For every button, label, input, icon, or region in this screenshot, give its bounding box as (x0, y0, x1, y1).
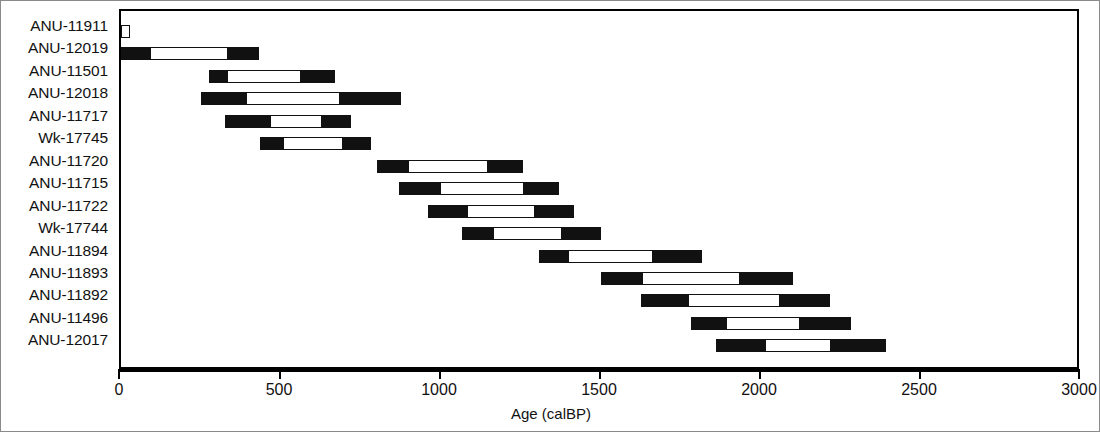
bar-segment-inner (643, 272, 739, 285)
bar-segment-inner (766, 339, 830, 352)
bar-segment-outer-left (399, 182, 441, 195)
bar-segment-inner (247, 92, 338, 105)
x-axis-title: Age (calBP) (1, 405, 1100, 422)
row-label: ANU-12017 (28, 332, 108, 348)
x-axis-tick (919, 369, 921, 379)
bar-segment-outer-right (300, 70, 335, 83)
bar-row (121, 70, 1081, 83)
bar-segment-outer-right (227, 47, 259, 60)
bar-row (121, 205, 1081, 218)
bar-segment-outer-left (691, 317, 728, 330)
x-axis-tick (599, 369, 601, 379)
bar-segment-outer-left (641, 294, 689, 307)
bar-segment-outer-left (601, 272, 643, 285)
bar-row (121, 317, 1081, 330)
bar-row (121, 250, 1081, 263)
bar-segment-outer-right (321, 115, 351, 128)
chart-page: ANU-11911ANU-12019ANU-11501ANU-12018ANU-… (0, 0, 1100, 432)
bar-row (121, 227, 1081, 240)
x-axis-tick (279, 369, 281, 379)
bar-segment-outer-right (339, 92, 401, 105)
x-axis-tick-label: 0 (115, 382, 124, 398)
bar-segment-outer-right (487, 160, 522, 173)
plot-area (119, 9, 1079, 369)
bar-row (121, 47, 1081, 60)
bar-row (121, 137, 1081, 150)
x-axis: 050010001500200025003000 (119, 369, 1079, 370)
row-label: ANU-11501 (29, 63, 108, 79)
bar-segment-outer-right (739, 272, 793, 285)
bar-segment-outer-left (539, 250, 569, 263)
bar-segment-inner (409, 160, 487, 173)
x-axis-tick (439, 369, 441, 379)
bar-segment-inner (284, 137, 342, 150)
bar-segment-outer-left (121, 47, 151, 60)
bar-segment-inner (689, 294, 779, 307)
row-label: ANU-11893 (29, 265, 108, 281)
bar-segment-outer-left (225, 115, 271, 128)
bar-segment-inner (228, 70, 300, 83)
bar-row (121, 182, 1081, 195)
bar-segment-outer-left (260, 137, 284, 150)
bar-segment-inner (271, 115, 321, 128)
row-label: ANU-12018 (28, 85, 108, 101)
row-label: ANU-11717 (29, 108, 108, 124)
x-axis-tick-label: 1000 (421, 382, 457, 398)
bars-container (121, 11, 1077, 367)
x-axis-tick-label: 2000 (741, 382, 777, 398)
row-label: ANU-11894 (29, 243, 108, 259)
bar-segment-outer-right (523, 182, 560, 195)
bar-row (121, 339, 1081, 352)
x-axis-tick-label: 500 (266, 382, 293, 398)
x-axis-tick-label: 1500 (581, 382, 617, 398)
bar-segment-inner (441, 182, 523, 195)
row-label: ANU-12019 (28, 40, 108, 56)
row-label: ANU-11911 (30, 18, 108, 34)
bar-segment-outer-right (799, 317, 850, 330)
row-label: ANU-11722 (29, 198, 108, 214)
bar-segment-inner (468, 205, 534, 218)
bar-segment-inner (494, 227, 561, 240)
x-axis-tick (1078, 369, 1080, 379)
y-axis-label-column: ANU-11911ANU-12019ANU-11501ANU-12018ANU-… (1, 1, 114, 369)
bar-segment-outer-right (342, 137, 371, 150)
row-label: Wk-17744 (38, 220, 108, 236)
bar-segment-outer-left (428, 205, 468, 218)
bar-segment-outer-left (201, 92, 247, 105)
bar-segment-outer-left (377, 160, 409, 173)
bar-row (121, 272, 1081, 285)
bar-segment-outer-right (561, 227, 601, 240)
bar-segment-outer-left (209, 70, 228, 83)
row-label: ANU-11715 (29, 175, 108, 191)
bar-row (121, 92, 1081, 105)
bar-segment-outer-right (534, 205, 574, 218)
bar-segment-outline (121, 25, 130, 38)
bar-segment-inner (727, 317, 799, 330)
x-axis-tick-label: 2500 (901, 382, 937, 398)
x-axis-tick (759, 369, 761, 379)
x-axis-tick-label: 3000 (1061, 382, 1097, 398)
row-label: Wk-17745 (38, 130, 108, 146)
bar-segment-outer-left (462, 227, 494, 240)
bar-row (121, 25, 1081, 38)
bar-row (121, 115, 1081, 128)
bar-row (121, 160, 1081, 173)
row-label: ANU-11496 (29, 310, 108, 326)
bar-segment-inner (151, 47, 226, 60)
row-label: ANU-11892 (29, 287, 108, 303)
x-axis-tick (118, 369, 120, 379)
bar-segment-outer-right (652, 250, 702, 263)
bar-segment-outer-left (716, 339, 766, 352)
bar-segment-outer-right (830, 339, 886, 352)
bar-row (121, 294, 1081, 307)
bar-segment-inner (569, 250, 652, 263)
bar-segment-outer-right (779, 294, 830, 307)
row-label: ANU-11720 (29, 153, 108, 169)
